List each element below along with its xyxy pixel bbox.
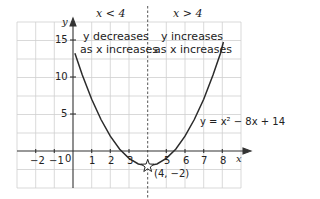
x-tick-7: 7	[201, 156, 207, 166]
x-tick-1: 1	[89, 156, 95, 166]
axis-y-label: y	[62, 17, 68, 27]
x-greater-than-4-label: x > 4	[173, 7, 202, 20]
region-left-line2: as x increases	[80, 44, 158, 55]
region-left-line1: y decreases	[83, 31, 149, 42]
x-tick-8: 8	[220, 156, 226, 166]
x-tick-6: 6	[183, 156, 189, 166]
x-tick-3: 3	[127, 156, 133, 166]
equation-label: y = x² − 8x + 14	[200, 117, 285, 127]
y-tick-15: 15	[55, 35, 68, 45]
title-right: x > 4	[173, 8, 202, 19]
title-left: x < 4	[96, 8, 125, 19]
parabola-curve	[75, 42, 224, 166]
x-less-than-4-label: x < 4	[96, 7, 125, 20]
y-tick-5: 5	[61, 109, 67, 119]
axis-x-label: x	[236, 154, 242, 164]
region-right-line1: y increases	[161, 31, 223, 42]
vertex-label: (4, −2)	[154, 169, 189, 179]
x-tick-neg2: −2	[30, 156, 45, 166]
y-tick-10: 10	[55, 72, 68, 82]
region-right-line2: as x increases	[154, 44, 232, 55]
origin-label: 0	[65, 154, 71, 164]
x-tick-2: 2	[108, 156, 114, 166]
x-tick-neg1: −1	[49, 156, 64, 166]
x-tick-5: 5	[164, 156, 170, 166]
